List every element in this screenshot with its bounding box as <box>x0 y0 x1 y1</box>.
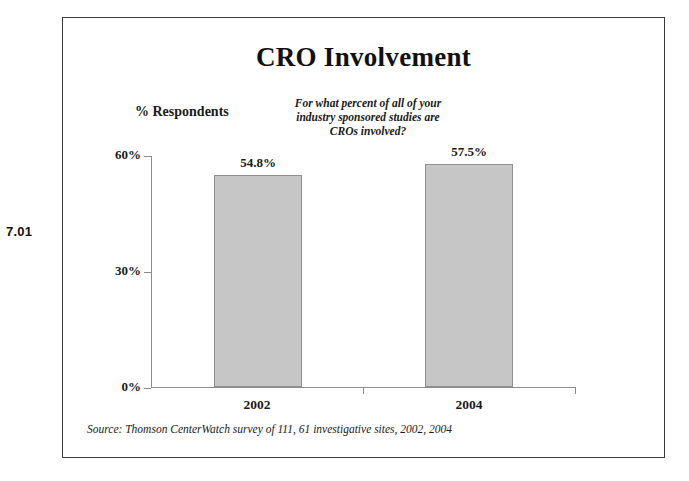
chart-title: CRO Involvement <box>63 42 664 73</box>
y-axis-title: % Respondents <box>135 104 229 120</box>
y-tick-label-0: 0% <box>122 379 142 395</box>
bar-2004[interactable]: 57.5% <box>425 164 513 387</box>
question-line-3: CROs involved? <box>273 124 463 138</box>
bar-value-2004: 57.5% <box>426 144 512 160</box>
x-axis-label-2004: 2004 <box>363 397 575 413</box>
question-line-1: For what percent of all of your <box>273 96 463 110</box>
x-axis-category-divider-tick <box>363 388 364 394</box>
figure-number: 7.01 <box>6 224 32 239</box>
plot-area: 60% 30% 0% 54.8% 2002 57.5% 2004 <box>151 156 576 388</box>
y-tick-mark-60 <box>144 156 151 157</box>
y-tick-0: 0% <box>151 388 152 389</box>
question-line-2: industry sponsored studies are <box>273 110 463 124</box>
x-axis-end-tick <box>575 388 576 394</box>
y-tick-label-30: 30% <box>115 263 141 279</box>
category-group-2002: 54.8% 2002 <box>151 156 363 388</box>
source-note: Source: Thomson CenterWatch survey of 11… <box>87 423 452 435</box>
y-tick-label-60: 60% <box>115 147 141 163</box>
category-group-2004: 57.5% 2004 <box>363 156 575 388</box>
y-tick-mark-30 <box>144 272 151 273</box>
chart-question-text: For what percent of all of your industry… <box>273 96 463 138</box>
slide-frame: CRO Involvement % Respondents For what p… <box>62 17 665 458</box>
y-tick-mark-0 <box>144 388 151 389</box>
bar-value-2002: 54.8% <box>215 155 301 171</box>
bar-2002[interactable]: 54.8% <box>214 175 302 387</box>
x-axis-label-2002: 2002 <box>151 397 363 413</box>
